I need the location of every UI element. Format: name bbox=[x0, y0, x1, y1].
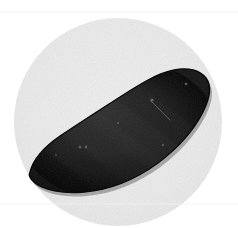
specimen-photograph bbox=[0, 0, 238, 228]
speck-lower-left-b bbox=[85, 146, 88, 149]
speck-upper-right bbox=[185, 83, 188, 86]
speck-far-left bbox=[55, 154, 57, 156]
speck-left-upper bbox=[117, 122, 119, 124]
speck-lower-left-a bbox=[79, 146, 82, 149]
image-canvas: A dark elongated curved specimen photogr… bbox=[0, 0, 238, 228]
speck-right-mid bbox=[162, 144, 164, 146]
